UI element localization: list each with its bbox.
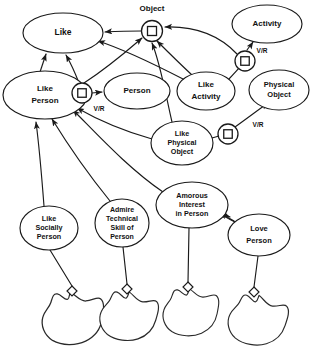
edge-layer [36,27,268,287]
edge-connector-lp-to-person [92,92,102,93]
edge-amorous-to-like-person [73,110,163,192]
node-like-physical-object[interactable]: Like Physical Object [151,121,213,165]
node-like-person-label-line1: Like [37,84,54,93]
node-object-label: Object [140,4,165,13]
instance-blob-layer [40,288,290,348]
node-admire-label-line2: Technical [106,215,138,222]
node-activity-label: Activity [253,19,282,28]
instance-blob-4 [226,293,289,348]
diamond-marker-layer [67,282,259,297]
node-activity[interactable]: Activity [232,5,302,43]
node-like-activity-label-line1: Like [198,80,215,89]
connector-like-person-vr[interactable] [72,83,92,103]
connector-object[interactable] [142,21,163,42]
node-amorous-label-line1: Amorous [176,191,208,200]
connector-object-square [148,27,157,36]
edge-like-socially-to-instance [50,250,72,286]
node-admire-technical-skill-of-person[interactable]: Admire Technical Skill of Person [95,199,149,247]
node-physical-object-label-line1: Physical [264,80,294,89]
connector-activity-vr[interactable] [235,51,255,71]
edge-like-socially-to-like-person [36,122,44,206]
node-amorous-label-line3: in Person [176,209,209,218]
node-physical-object-label-line2: Object [267,90,291,99]
vr-label-person: V/R [94,105,105,112]
edge-like-activity-to-object [157,41,192,75]
node-admire-label-line3: Skill of [111,224,135,231]
node-like-socially-person[interactable]: Like Socially Person [20,206,78,250]
node-like-socially-label-line2: Socially [35,223,62,232]
semantic-network-diagram: Like Activity Like Person Person Lik [0,0,312,350]
edge-like-person-to-like [40,54,46,72]
diamond-4 [249,287,259,297]
node-admire-label-line4: Person [110,233,134,240]
edge-amorous-to-instance [188,228,189,282]
node-like[interactable]: Like [23,13,103,53]
node-admire-label-line1: Admire [110,206,134,213]
connector-activity-vr-square [241,57,250,66]
vr-label-activity: V/R [257,47,268,54]
edge-like-physical-object-to-like-person [77,108,152,139]
node-person-label: Person [123,86,150,95]
node-like-physical-object-label-line3: Object [171,147,194,156]
node-love-person-label-line2: Person [246,236,272,245]
diamond-1 [67,286,77,296]
edge-connector-activity-to-activity [247,42,253,50]
vr-label-physical: V/R [253,121,264,128]
node-like-physical-object-label-line1: Like [175,129,189,138]
node-like-physical-object-label-line2: Physical [167,138,196,147]
node-amorous-interest-in-person[interactable]: Amorous Interest in Person [156,182,228,228]
node-like-label: Like [54,27,71,37]
instance-blob-1 [40,290,106,347]
connector-like-person-vr-square [78,89,87,98]
node-layer: Like Activity Like Person Person Lik [3,5,309,256]
instance-blob-3 [162,288,220,337]
node-like-socially-label-line3: Person [37,232,61,241]
connector-physical-vr-square [224,130,233,139]
node-amorous-label-line2: Interest [179,200,206,209]
node-like-activity-label-line2: Activity [192,92,221,101]
edge-love-person-to-instance [254,256,258,287]
diagram-canvas: Like Activity Like Person Person Lik [0,0,312,350]
edge-admire-to-instance [123,247,127,284]
node-like-activity[interactable]: Like Activity [177,72,235,110]
node-person[interactable]: Person [104,73,170,109]
edge-object-to-like [105,31,141,32]
edge-connector-activity-to-object [165,27,237,54]
node-like-activity-shape[interactable] [177,72,235,110]
node-love-person-label-line1: Love [250,224,268,233]
node-physical-object[interactable]: Physical Object [249,70,309,110]
instance-blob-2 [99,290,160,342]
node-like-socially-label-line1: Like [42,214,56,223]
connector-physical-vr[interactable] [218,124,238,144]
node-like-person-label-line2: Person [31,96,58,105]
edge-admire-to-like-person [52,119,110,201]
node-love-person[interactable]: Love Person [228,214,290,256]
